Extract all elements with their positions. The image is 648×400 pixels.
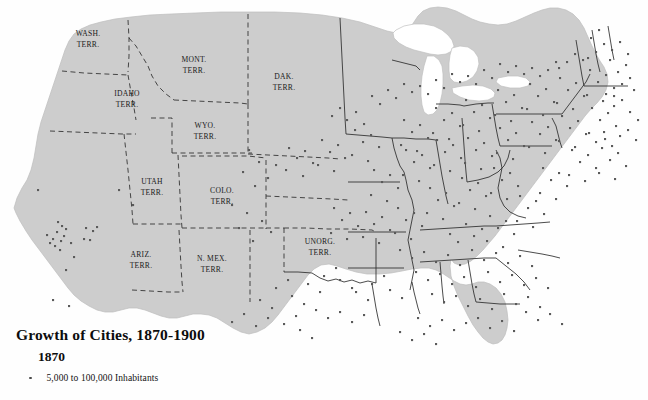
city-dot bbox=[527, 207, 529, 209]
city-dot bbox=[519, 255, 521, 257]
city-dot bbox=[49, 242, 51, 244]
city-dot bbox=[351, 154, 353, 156]
city-dot bbox=[521, 107, 523, 109]
border-nh-me bbox=[608, 26, 614, 60]
city-dot bbox=[355, 111, 357, 113]
city-dot bbox=[423, 251, 425, 253]
city-dot bbox=[475, 286, 477, 288]
city-dot bbox=[561, 323, 563, 325]
city-dot bbox=[531, 265, 533, 267]
city-dot bbox=[416, 150, 418, 152]
city-dot bbox=[283, 323, 285, 325]
city-dot bbox=[512, 158, 514, 160]
city-dot bbox=[526, 108, 528, 110]
city-dot bbox=[411, 257, 413, 259]
city-dot bbox=[423, 333, 425, 335]
city-dot bbox=[460, 157, 462, 159]
territory-label-line2: TERR. bbox=[273, 83, 296, 92]
city-dot bbox=[96, 226, 98, 228]
city-dot bbox=[399, 249, 401, 251]
city-dot bbox=[465, 99, 467, 101]
city-dot bbox=[566, 61, 568, 63]
city-dot bbox=[637, 119, 639, 121]
city-dot bbox=[566, 185, 568, 187]
legend-block: Growth of Cities, 1870-1900 1870 5,000 t… bbox=[16, 326, 336, 383]
city-dot bbox=[351, 287, 353, 289]
city-dot bbox=[371, 283, 373, 285]
city-dot bbox=[605, 93, 607, 95]
city-dot bbox=[611, 49, 613, 51]
city-dot bbox=[556, 102, 558, 104]
city-dot bbox=[444, 151, 446, 153]
city-dot bbox=[59, 249, 61, 251]
city-dot bbox=[545, 88, 547, 90]
city-dot bbox=[410, 238, 412, 240]
border-nc-sc bbox=[518, 250, 560, 258]
city-dot bbox=[435, 261, 437, 263]
city-dot bbox=[587, 154, 589, 156]
city-dot bbox=[46, 234, 48, 236]
city-dot bbox=[270, 231, 272, 233]
city-dot bbox=[489, 327, 491, 329]
city-dot bbox=[92, 230, 94, 232]
city-dot bbox=[85, 227, 87, 229]
city-dot bbox=[583, 95, 585, 97]
city-dot bbox=[448, 138, 450, 140]
city-dot bbox=[513, 94, 515, 96]
city-dot bbox=[403, 119, 405, 121]
city-dot bbox=[591, 107, 593, 109]
city-dot bbox=[411, 339, 413, 341]
city-dot bbox=[429, 187, 431, 189]
city-dot bbox=[499, 127, 501, 129]
city-dot bbox=[52, 299, 54, 301]
us-landmass-shape bbox=[14, 7, 608, 344]
city-dot bbox=[595, 51, 597, 53]
city-dot bbox=[315, 309, 317, 311]
city-dot bbox=[587, 57, 589, 59]
city-dot bbox=[473, 235, 475, 237]
city-dot bbox=[321, 139, 323, 141]
city-dot bbox=[452, 144, 454, 146]
city-dot bbox=[419, 85, 421, 87]
city-dot bbox=[604, 138, 606, 140]
city-dot bbox=[389, 229, 391, 231]
city-dot bbox=[381, 216, 383, 218]
territory-label-line1: COLO. bbox=[210, 186, 234, 195]
city-dot bbox=[635, 139, 637, 141]
city-dot bbox=[603, 43, 605, 45]
city-dot bbox=[571, 149, 573, 151]
city-dot bbox=[389, 289, 391, 291]
city-dot bbox=[519, 195, 521, 197]
territory-label-line2: TERR. bbox=[77, 40, 100, 49]
city-dot bbox=[590, 37, 592, 39]
city-dot bbox=[501, 320, 503, 322]
city-dot bbox=[602, 100, 604, 102]
city-dot bbox=[555, 61, 557, 63]
city-dot bbox=[363, 314, 365, 316]
city-dot bbox=[365, 211, 367, 213]
city-dot bbox=[486, 240, 488, 242]
city-dot bbox=[242, 171, 244, 173]
lake-ontario bbox=[496, 76, 530, 88]
city-dot bbox=[621, 83, 623, 85]
city-dot bbox=[68, 305, 70, 307]
city-dot bbox=[553, 101, 555, 103]
city-dot bbox=[609, 59, 611, 61]
city-dot bbox=[54, 245, 56, 247]
city-dot bbox=[421, 154, 423, 156]
city-dot bbox=[405, 219, 407, 221]
city-dot bbox=[411, 131, 413, 133]
city-dot bbox=[547, 126, 549, 128]
city-dot bbox=[487, 271, 489, 273]
territory-label-line2: TERR. bbox=[130, 261, 153, 270]
city-dot bbox=[501, 179, 503, 181]
city-dot bbox=[378, 242, 380, 244]
city-dot bbox=[319, 291, 321, 293]
city-dot bbox=[588, 132, 590, 134]
city-dot bbox=[615, 125, 617, 127]
city-dot bbox=[346, 238, 348, 240]
territory-label-line2: TERR. bbox=[116, 100, 139, 109]
city-dot bbox=[599, 119, 601, 121]
city-dot bbox=[285, 169, 287, 171]
city-dot bbox=[259, 299, 261, 301]
